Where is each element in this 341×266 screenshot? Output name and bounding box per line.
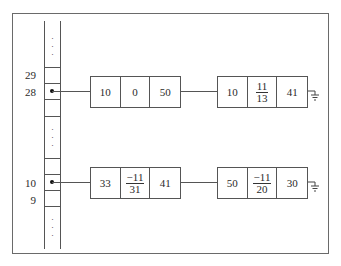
list-node-10-1: 33 −1131 41 [90,167,181,199]
fraction-numerator: −11 [253,172,272,184]
fraction-numerator: 11 [256,81,269,93]
pointer-line-28 [52,91,90,92]
index-label-28: 28 [14,86,36,98]
fraction-denominator: 31 [130,184,141,195]
index-label-29: 29 [14,69,36,81]
ground-null-icon [308,180,322,194]
link-line [181,91,217,92]
node-cell: 10 [91,77,121,107]
ellipsis-middle: ··· [44,125,61,149]
index-label-10: 10 [14,177,36,189]
list-node-28-1: 10 0 50 [90,76,181,108]
list-node-28-2: 10 1113 41 [217,76,308,108]
ellipsis-top: ··· [44,34,61,58]
list-node-10-2: 50 −1120 30 [217,167,308,199]
index-label-9: 9 [14,194,36,206]
node-cell: 33 [91,168,121,198]
pointer-line-10 [52,182,90,183]
node-cell: 50 [218,168,248,198]
node-cell: 50 [150,77,180,107]
node-cell: 41 [150,168,180,198]
node-cell-fraction: −1120 [248,168,278,198]
ground-null-icon [308,89,322,103]
fraction-numerator: −11 [126,172,145,184]
node-cell: 41 [277,77,307,107]
fraction-denominator: 20 [257,184,268,195]
node-cell: 0 [121,77,151,107]
node-cell-fraction: 1113 [248,77,278,107]
link-line [181,182,217,183]
ellipsis-bottom: ··· [44,215,61,239]
node-cell-fraction: −1131 [121,168,151,198]
node-cell: 30 [277,168,307,198]
node-cell: 10 [218,77,248,107]
fraction-denominator: 13 [257,93,268,104]
